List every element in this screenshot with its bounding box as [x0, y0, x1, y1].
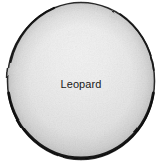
diagram-canvas: Leopard — [0, 0, 162, 168]
set-diagram — [0, 0, 162, 168]
